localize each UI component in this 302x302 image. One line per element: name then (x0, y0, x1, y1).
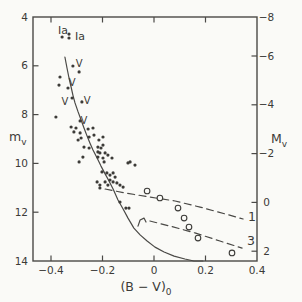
star-point-open (175, 205, 181, 211)
x-tick-label: 0 (151, 264, 158, 276)
star-point-filled (124, 207, 127, 210)
star-point-filled (98, 186, 101, 189)
y-left-tick-label: 6 (21, 59, 28, 71)
star-point-filled (96, 180, 99, 183)
axis-ticks-layer (33, 17, 257, 261)
star-point-filled (115, 181, 118, 184)
fiducial-line-3-curve (150, 221, 242, 248)
y-right-tick-label: 2 (263, 245, 270, 257)
y-right-tick-label: −2 (259, 147, 274, 159)
curves-layer (65, 57, 243, 261)
star-point-filled (98, 151, 101, 154)
fiducial-line-id-label: 3 (247, 233, 255, 248)
star-point-filled (110, 156, 113, 159)
star-point-filled (92, 134, 95, 137)
luminosity-class-V-label: V (69, 77, 76, 88)
y-left-tick-label: 4 (21, 11, 28, 23)
star-point-filled (82, 146, 85, 149)
star-point-filled (122, 186, 125, 189)
star-point-filled (105, 171, 108, 174)
luminosity-class-V-label: V (84, 95, 91, 106)
star-point-filled (106, 184, 109, 187)
star-point-filled (71, 96, 74, 99)
star-point-filled (71, 64, 74, 67)
star-point-filled (100, 170, 103, 173)
star-point-filled (72, 130, 75, 133)
star-point-open (144, 188, 150, 194)
fiducial-line-3-jog-curve (138, 218, 146, 226)
star-point-filled (80, 136, 83, 139)
star-point-filled (79, 131, 82, 134)
star-point-filled (98, 184, 101, 187)
luminosity-class-V-label: V (81, 115, 88, 126)
x-tick-label: −0.2 (90, 264, 116, 276)
star-point-open (186, 224, 192, 230)
star-point-filled (96, 146, 99, 149)
star-point-filled (87, 127, 90, 130)
y-right-axis-title: Mv (271, 131, 288, 149)
star-point-filled (118, 184, 121, 187)
star-point-filled (81, 156, 84, 159)
x-tick-label: 0.4 (249, 264, 266, 276)
x-tick-label: 0.2 (197, 264, 214, 276)
star-point-filled (127, 207, 130, 210)
plot-frame (33, 17, 257, 261)
star-point-filled (114, 176, 117, 179)
y-left-tick-label: 12 (15, 206, 28, 218)
star-point-filled (112, 180, 115, 183)
star-point-open (229, 250, 235, 256)
star-point-filled (108, 174, 111, 177)
star-point-filled (77, 138, 80, 141)
star-point-filled (101, 156, 104, 159)
star-point-open (195, 235, 201, 241)
y-left-tick-label: 8 (21, 108, 28, 120)
y-left-tick-label: 14 (15, 255, 29, 267)
star-point-filled (108, 178, 111, 181)
figure-canvas: IaIaVVVVV13 −0.4−0.200.20.4468101214−8−6… (0, 0, 302, 302)
star-point-filled (88, 135, 91, 138)
luminosity-class-V-label: V (76, 58, 83, 69)
axis-labels-layer: −0.4−0.200.20.4468101214−8−6−4−202 (15, 11, 275, 276)
star-point-filled (78, 160, 81, 163)
y-right-tick-label: 0 (263, 196, 270, 208)
star-point-filled (78, 70, 81, 73)
star-point-open (181, 215, 187, 221)
y-right-tick-label: −8 (259, 11, 274, 23)
star-point-filled (133, 164, 136, 167)
star-point-filled (57, 84, 60, 87)
star-point-filled (118, 200, 121, 203)
star-point-filled (54, 115, 57, 118)
luminosity-class-V-label: V (61, 96, 68, 107)
star-point-open (157, 195, 163, 201)
star-point-filled (96, 156, 99, 159)
star-point-filled (74, 126, 77, 129)
star-point-filled (104, 180, 107, 183)
star-point-filled (104, 151, 107, 154)
star-point-filled (103, 160, 106, 163)
star-point-filled (101, 144, 104, 147)
y-left-axis-title: mv (9, 129, 27, 147)
star-point-filled (99, 146, 102, 149)
star-point-filled (101, 135, 104, 138)
star-point-filled (88, 146, 91, 149)
star-point-filled (70, 125, 73, 128)
star-point-filled (58, 75, 61, 78)
luminosity-class-Ia-label: Ia (58, 24, 68, 37)
y-right-tick-label: −6 (259, 50, 275, 62)
star-point-filled (91, 126, 94, 129)
luminosity-class-Ia-label: Ia (75, 30, 85, 43)
y-left-tick-label: 10 (15, 157, 28, 169)
star-point-filled (106, 154, 109, 157)
y-right-tick-label: −4 (259, 98, 275, 110)
x-axis-title: (B − V)0 (120, 279, 171, 297)
star-point-filled (97, 138, 100, 141)
star-point-filled (112, 171, 115, 174)
x-tick-label: −0.4 (38, 264, 64, 276)
cmd-figure: IaIaVVVVV13 −0.4−0.200.20.4468101214−8−6… (0, 0, 302, 302)
main-sequence-curve (65, 57, 203, 261)
star-point-filled (126, 161, 129, 164)
fiducial-line-id-label: 1 (248, 209, 256, 224)
